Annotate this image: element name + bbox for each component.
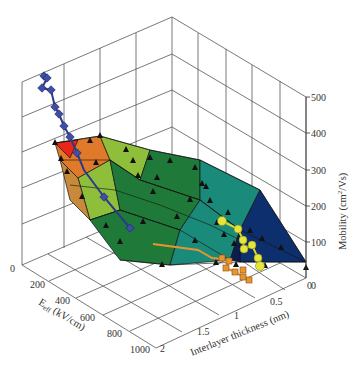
y-tick-0.5: 0.5	[270, 296, 283, 307]
x-tick-200: 200	[30, 279, 45, 290]
y-tick-0: 0	[307, 280, 312, 291]
z-tick-200: 200	[311, 201, 326, 212]
x-tick-0: 0	[10, 263, 15, 274]
z-tick-400: 400	[311, 128, 326, 139]
z-tick-300: 300	[311, 165, 326, 176]
x-tick-800: 800	[107, 328, 122, 339]
z-axis	[306, 97, 310, 278]
x-tick-1000: 1000	[130, 344, 150, 355]
y-tick-1: 1	[234, 310, 239, 321]
y-tick-1.5: 1.5	[197, 326, 210, 337]
y-tick-2: 2	[160, 343, 165, 354]
mobility-3d-surface-chart: 500 400 300 200 100 0 Mobility (cm2/Vs) …	[0, 0, 351, 370]
mobility-surface	[55, 136, 306, 265]
z-tick-500: 500	[311, 92, 326, 103]
z-axis-label: Mobility (cm2/Vs)	[336, 172, 349, 250]
z-tick-100: 100	[311, 237, 326, 248]
